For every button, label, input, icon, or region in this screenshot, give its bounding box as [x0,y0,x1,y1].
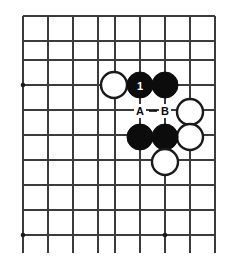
black-stone-move-1: 1 [127,72,153,98]
white-stone-left-disc [101,72,127,98]
white-stone-right-upper-disc [177,99,203,125]
point-label-b: B [161,105,169,117]
black-stone-upper-right-disc [152,72,178,98]
white-stone-right-upper [177,99,203,125]
go-diagram: AB 1 [0,0,251,258]
black-stone-lower-left-disc [127,124,153,150]
white-stone-bottom [152,149,178,175]
black-stone-lower-right [152,124,178,150]
star-point-left-lower [21,233,26,238]
black-stone-lower-right-disc [152,124,178,150]
black-stone-lower-left [127,124,153,150]
white-stone-right-lower-disc [177,124,203,150]
white-stone-bottom-disc [152,149,178,175]
go-board: AB 1 [0,0,251,258]
star-point-bottom-center [163,233,168,238]
white-stone-left [101,72,127,98]
star-point-left-upper [21,83,26,88]
black-stone-move-1-label: 1 [137,80,143,92]
point-label-a: A [136,105,144,117]
black-stone-upper-right [152,72,178,98]
white-stone-right-lower [177,124,203,150]
